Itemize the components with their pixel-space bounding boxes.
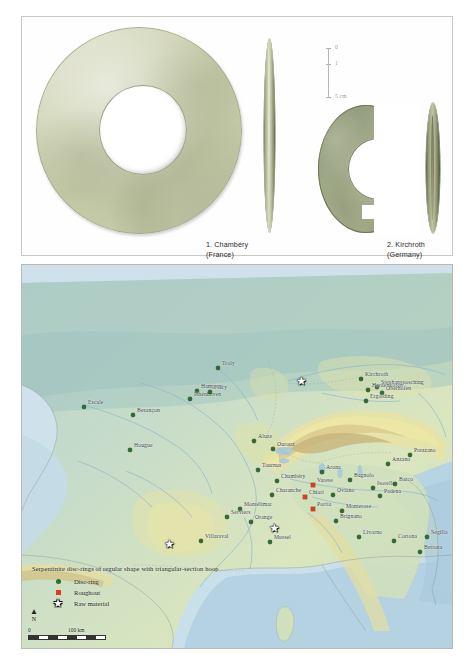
map-site-label: Barco [399,476,413,482]
scale-tick-1 [326,64,331,65]
caption-kirchroth: 2. Kirchroth (Germany) [387,240,425,261]
map-legend: Serpentinite disc-rings of regular shape… [32,565,292,609]
disc-ring-chambery-photo [36,27,242,234]
caption-kirchroth-country: (Germany) [387,250,425,260]
roughout-symbol-icon [50,590,66,595]
scale-label-1: 1 [335,61,338,67]
map-site-label: Ergolding [370,393,394,399]
north-arrow-label: N [28,616,40,623]
disc-ring-symbol-icon [50,579,66,584]
caption-chambery-title: 1. Chambéry [206,240,248,250]
map-site-label: Segilla [431,529,448,535]
fragment-notch [362,205,378,219]
map-scale-labels: 0 100 km [28,627,106,635]
map-site-label: Orange [255,514,272,520]
legend-title: Serpentinite disc-rings of regular shape… [32,565,292,572]
map-site-label: Livorno [363,529,382,535]
map-site-label: Padena [384,488,401,494]
caption-kirchroth-title: 2. Kirchroth [387,240,425,250]
map-scale-max: 100 km [68,627,84,633]
scale-tick-5 [326,97,331,98]
map-site-label: Bettona [424,544,442,550]
map-site-label: Varese [317,477,333,483]
map-scale-segments [28,635,106,640]
scale-tick-0 [326,48,331,49]
caption-chambery-country: (France) [206,250,248,260]
map-site-label: Besançon [137,407,160,413]
legend-item-roughout: Roughout [50,587,292,598]
map-scale-bar: 0 100 km [28,627,106,640]
map-site-label: Oviano [337,487,354,493]
disc-ring-kirchroth-photo [318,105,414,233]
photo-scale-bar: 0 1 5 cm [328,45,380,101]
artifact-photo-panel: 0 1 5 cm [21,16,453,256]
map-scale-min: 0 [28,627,31,633]
north-arrow-head: ▲ [28,608,40,616]
map-site-label: Troly [222,360,235,366]
raw-material-star-icon: ★ [50,598,66,609]
disc-ring-perforation [99,85,187,175]
figure-page: 0 1 5 cm 1. Chambéry (France) 2. Kirchro… [0,0,474,665]
map-site-marker [311,507,315,511]
north-arrow-icon: ▲ N [28,608,40,628]
map-site-label: Cortona [398,533,417,539]
distribution-map-panel: EscaleTrolyBesançonHampontIshénhovenFlac… [21,264,453,649]
map-site-label: Montélimar [244,501,272,507]
map-site-label: Ouroux [277,441,295,447]
map-site-label: Portia [317,501,331,507]
disc-ring-chambery-profile [264,39,275,232]
map-site-label: Arona [326,464,341,470]
map-site-label: Kirchroth [365,371,388,377]
map-site-label: Hougue [134,442,153,448]
map-site-label: Brignano [340,513,362,519]
legend-label-roughout: Roughout [74,589,100,596]
scale-axis [328,48,329,98]
map-site-label: Flacy [214,384,227,390]
map-site-label: Villaraval [205,533,229,539]
map-site-label: Chiari [309,489,324,495]
map-site-label: Anzano [392,456,410,462]
map-site-label: Escale [88,399,104,405]
fragment-break-edge [374,103,418,235]
legend-item-raw-material: ★ Raw material [50,598,292,609]
map-site-marker [311,483,315,487]
scale-label-0: 0 [335,45,338,51]
map-site-label: Bagnolo [354,472,374,478]
map-site-marker [303,495,307,499]
raw-material-star-icon: ★ [269,522,280,534]
map-site-label: Oberhofen [386,385,411,391]
legend-label-disc-ring: Disc-ring [74,578,99,585]
raw-material-star-icon: ★ [296,375,307,387]
map-site-label: Prezzano [414,447,436,453]
raw-material-star-icon: ★ [164,538,175,550]
map-site-label: Serviers [231,509,251,515]
caption-chambery: 1. Chambéry (France) [206,240,248,261]
disc-ring-kirchroth-profile [426,103,440,233]
scale-label-5: 5 cm [335,94,347,100]
legend-item-disc-ring: Disc-ring [50,576,292,587]
legend-label-raw-material: Raw material [74,600,109,607]
map-site-label: Monterose [346,503,371,509]
map-site-label: Aluze [258,433,272,439]
map-site-label: Charanche [276,487,301,493]
map-site-label: Tournus [262,462,281,468]
map-site-label: Chambéry [281,473,306,479]
